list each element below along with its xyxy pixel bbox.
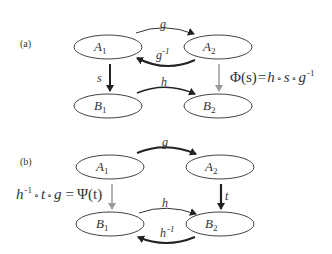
equation-psi: h-1∘t∘g=Ψ(t)	[16, 185, 102, 203]
edge-b-t: t	[221, 184, 229, 209]
edge-b-g: g	[137, 135, 196, 154]
node-a-A1: A1	[74, 35, 142, 59]
edge-a-g: g	[136, 17, 194, 34]
svg-text:A2: A2	[204, 159, 217, 176]
svg-text:A1: A1	[95, 159, 108, 176]
node-a-B1: B1	[74, 94, 142, 118]
svg-text:A2: A2	[202, 39, 215, 56]
svg-text:s: s	[97, 71, 102, 85]
edge-a-h: h	[137, 75, 195, 94]
node-a-B2: B2	[184, 94, 252, 118]
category-diagram: (a) A1 A2 B1 B2 g g-1	[0, 0, 332, 254]
svg-text:B1: B1	[94, 98, 106, 115]
node-b-B1: B1	[76, 212, 144, 236]
edge-a-s: s	[97, 64, 110, 91]
svg-text:h: h	[161, 75, 167, 89]
svg-text:B1: B1	[96, 216, 108, 233]
svg-text:h-1: h-1	[160, 224, 175, 240]
edge-a-g-inverse: g-1	[137, 46, 195, 66]
edge-b-h: h	[139, 196, 196, 214]
svg-text:h: h	[162, 196, 168, 210]
svg-text:g-1: g-1	[156, 46, 170, 62]
svg-text:B2: B2	[205, 216, 217, 233]
panel-b: (b) A1 A2 B1 B2 g t	[16, 135, 254, 243]
node-b-A2: A2	[186, 155, 254, 179]
panel-b-label: (b)	[20, 156, 32, 168]
equation-phi: Φ(s)=h∘s∘g-1	[230, 68, 314, 86]
svg-text:t: t	[225, 189, 229, 203]
panel-a-label: (a)	[20, 38, 31, 50]
svg-text:g: g	[160, 17, 166, 31]
node-b-A1: A1	[76, 155, 144, 179]
node-b-B2: B2	[186, 212, 254, 236]
svg-text:B2: B2	[203, 98, 215, 115]
node-a-A2: A2	[184, 35, 252, 59]
svg-text:A1: A1	[93, 39, 106, 56]
svg-text:g: g	[162, 135, 168, 149]
panel-a: (a) A1 A2 B1 B2 g g-1	[20, 17, 314, 118]
